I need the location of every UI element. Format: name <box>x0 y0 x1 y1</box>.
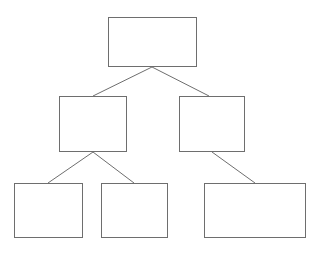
connector-mid-left-to-leaf-1 <box>48 152 93 183</box>
node-box-leaf-1[interactable] <box>14 183 83 238</box>
hierarchy-diagram <box>0 0 321 255</box>
connector-root-to-mid-right <box>152 67 209 96</box>
node-box-root[interactable] <box>108 17 197 67</box>
connector-mid-right-to-leaf-3 <box>212 152 255 183</box>
node-box-leaf-3[interactable] <box>204 183 306 238</box>
node-box-mid-left[interactable] <box>59 96 127 152</box>
connector-root-to-mid-left <box>93 67 152 96</box>
node-box-leaf-2[interactable] <box>101 183 168 238</box>
node-box-mid-right[interactable] <box>179 96 245 152</box>
connector-mid-left-to-leaf-2 <box>93 152 134 183</box>
